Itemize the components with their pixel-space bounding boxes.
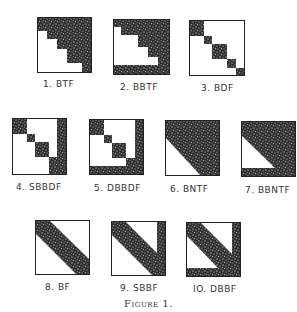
panel-label: 1. BTF: [43, 79, 74, 89]
panel-dbbdf: [89, 119, 144, 175]
panel-sbbf: [111, 221, 166, 276]
figure-caption: Figure 1.: [0, 298, 297, 309]
panel-label: 6. BNTF: [170, 184, 209, 194]
panel-label: 9. SBBF: [120, 283, 158, 293]
panel-dbbf: [186, 222, 241, 277]
panel-bdf: [189, 20, 245, 76]
panel-bf: [35, 220, 90, 275]
panel-bbtf: [113, 19, 170, 75]
panel-label: 5. DBBDF: [94, 183, 141, 193]
panel-label: IO. DBBF: [193, 284, 237, 294]
panel-label: 2. BBTF: [120, 82, 158, 92]
panel-bntf: [165, 120, 220, 176]
panel-btf: [37, 17, 92, 73]
panel-sbbdf: [12, 118, 67, 175]
panel-label: 7. BBNTF: [245, 185, 290, 195]
panel-label: 4. SBBDF: [16, 182, 62, 192]
panel-bbntf: [241, 121, 296, 177]
panel-label: 3. BDF: [201, 83, 234, 93]
panel-label: 8. BF: [45, 282, 70, 292]
